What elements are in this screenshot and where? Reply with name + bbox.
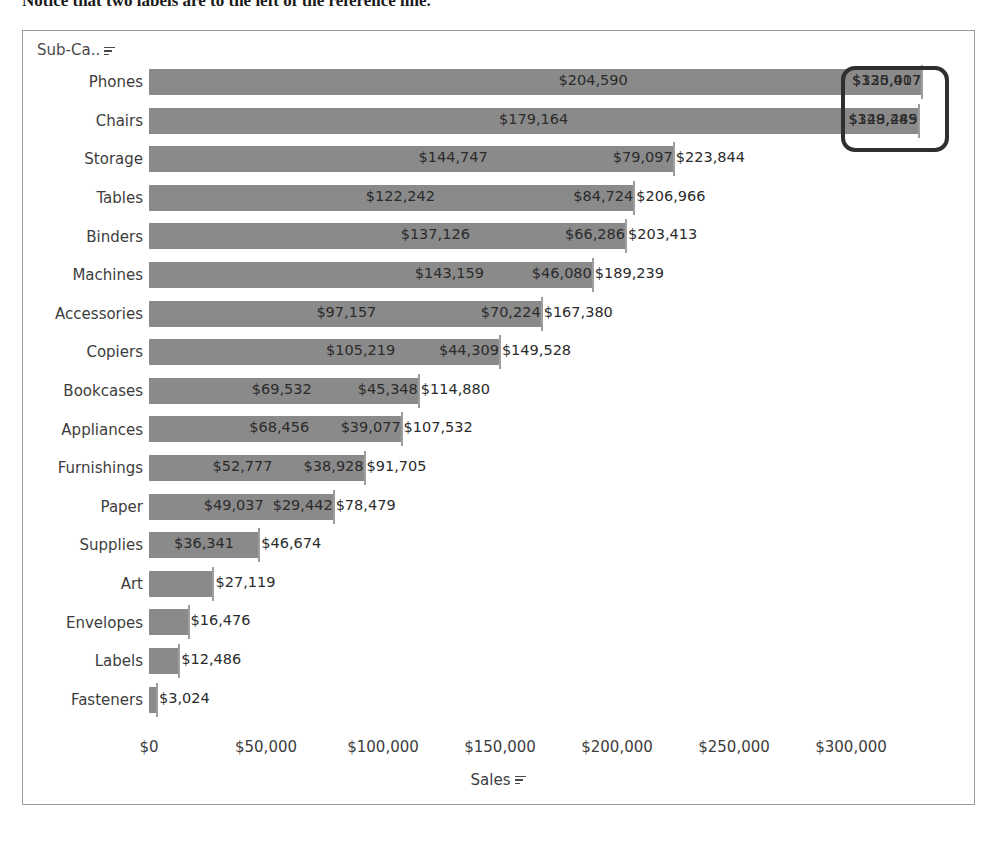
bar-row[interactable]: Copiers$105,219$44,309$149,528: [23, 333, 974, 372]
bar-segment-label: $70,224: [481, 304, 541, 320]
bar-segment-label: $52,777: [213, 458, 273, 474]
bar-row[interactable]: Binders$137,126$66,286$203,413: [23, 217, 974, 256]
bar-row[interactable]: Storage$144,747$79,097$223,844: [23, 140, 974, 179]
bar-total-label: $16,476: [188, 612, 251, 628]
row-label-supplies: Supplies: [23, 536, 143, 554]
bar-row[interactable]: Appliances$68,456$39,077$107,532: [23, 410, 974, 449]
bar-segment-label: $66,286: [565, 226, 625, 242]
bar-track: $105,219$44,309$149,528: [149, 333, 974, 372]
bar-segment-label: $137,126: [401, 226, 470, 242]
row-label-storage: Storage: [23, 150, 143, 168]
bar-total-label: $167,380: [541, 304, 613, 320]
bar-total-label: $223,844: [673, 149, 745, 165]
bar[interactable]: [149, 223, 625, 249]
bar[interactable]: [149, 648, 178, 674]
bar-total-label: $46,674: [258, 535, 321, 551]
sort-descending-icon[interactable]: [104, 47, 115, 56]
bar-row[interactable]: Supplies$36,341$46,674: [23, 526, 974, 565]
row-label-labels: Labels: [23, 652, 143, 670]
bar-row[interactable]: Chairs$179,164$149,285$328,449: [23, 102, 974, 141]
bar-segment-label: $179,164: [499, 111, 568, 127]
bar-segment-label: $79,097: [613, 149, 673, 165]
row-label-paper: Paper: [23, 498, 143, 516]
bar[interactable]: [149, 687, 156, 713]
bar-row[interactable]: Furnishings$52,777$38,928$91,705: [23, 449, 974, 488]
x-axis-tick-label: $0: [139, 738, 158, 756]
x-axis-title[interactable]: Sales: [23, 770, 974, 789]
bar-track: $16,476: [149, 603, 974, 642]
bar-row[interactable]: Bookcases$69,532$45,348$114,880: [23, 372, 974, 411]
row-label-copiers: Copiers: [23, 343, 143, 361]
bar-total-label: $328,449: [845, 111, 917, 127]
x-axis: $0$50,000$100,000$150,000$200,000$250,00…: [149, 738, 974, 758]
bar-row[interactable]: Tables$122,242$84,724$206,966: [23, 179, 974, 218]
bar-segment-label: $97,157: [316, 304, 376, 320]
bar-row[interactable]: Fasteners$3,024: [23, 681, 974, 720]
row-label-appliances: Appliances: [23, 421, 143, 439]
bar-segment-label: $84,724: [573, 188, 633, 204]
bar-row[interactable]: Machines$143,159$46,080$189,239: [23, 256, 974, 295]
sort-descending-icon[interactable]: [515, 776, 526, 785]
x-axis-tick-label: $200,000: [581, 738, 653, 756]
bar[interactable]: [149, 609, 188, 635]
bar-track: $143,159$46,080$189,239: [149, 256, 974, 295]
bar-track: $36,341$46,674: [149, 526, 974, 565]
bar-track: $12,486: [149, 642, 974, 681]
bar-row[interactable]: Art$27,119: [23, 565, 974, 604]
bar-total-label: $189,239: [592, 265, 664, 281]
bar-segment-label: $68,456: [249, 419, 309, 435]
bar-track: $179,164$149,285$328,449: [149, 102, 974, 141]
row-label-envelopes: Envelopes: [23, 614, 143, 632]
row-label-furnishings: Furnishings: [23, 459, 143, 477]
bar-segment-label: $69,532: [252, 381, 312, 397]
bar[interactable]: [149, 571, 212, 597]
row-label-fasteners: Fasteners: [23, 691, 143, 709]
bar-end-reference-tick: [918, 104, 920, 138]
bar[interactable]: [149, 69, 921, 95]
bar-track: $122,242$84,724$206,966: [149, 179, 974, 218]
bar-row[interactable]: Envelopes$16,476: [23, 603, 974, 642]
bar-segment-label: $36,341: [174, 535, 234, 551]
bar-segment-label: $39,077: [341, 419, 401, 435]
row-label-machines: Machines: [23, 266, 143, 284]
bar-track: $97,157$70,224$167,380: [149, 295, 974, 334]
bar-total-label: $206,966: [633, 188, 705, 204]
bar-row[interactable]: Accessories$97,157$70,224$167,380: [23, 295, 974, 334]
bar-segment-label: $44,309: [439, 342, 499, 358]
figure-caption: Notice that two labels are to the left o…: [22, 0, 822, 9]
bar-row[interactable]: Phones$204,590$125,417$330,007: [23, 63, 974, 102]
x-axis-tick-label: $100,000: [347, 738, 419, 756]
bar-track: $52,777$38,928$91,705: [149, 449, 974, 488]
bar-track: $3,024: [149, 681, 974, 720]
row-label-binders: Binders: [23, 228, 143, 246]
bar-segment-label: $29,442: [273, 497, 333, 513]
bar-total-label: $330,007: [849, 72, 921, 88]
bar[interactable]: [149, 262, 592, 288]
bar-segment-label: $38,928: [304, 458, 364, 474]
bar-end-reference-tick: [921, 65, 923, 99]
bar-total-label: $203,413: [625, 226, 697, 242]
bar-segment-label: $204,590: [559, 72, 628, 88]
bar-row[interactable]: Paper$49,037$29,442$78,479: [23, 488, 974, 527]
bar-track: $27,119: [149, 565, 974, 604]
row-label-accessories: Accessories: [23, 305, 143, 323]
bar-segment-label: $46,080: [532, 265, 592, 281]
row-label-art: Art: [23, 575, 143, 593]
bar-total-label: $3,024: [156, 690, 210, 706]
bar-total-label: $12,486: [178, 651, 241, 667]
bar-track: $69,532$45,348$114,880: [149, 372, 974, 411]
bar[interactable]: [149, 146, 673, 172]
bar-track: $137,126$66,286$203,413: [149, 217, 974, 256]
bar-segment-label: $45,348: [358, 381, 418, 397]
bar-track: $204,590$125,417$330,007: [149, 63, 974, 102]
row-label-phones: Phones: [23, 73, 143, 91]
bar-total-label: $149,528: [499, 342, 571, 358]
bar-track: $49,037$29,442$78,479: [149, 488, 974, 527]
bar-row[interactable]: Labels$12,486: [23, 642, 974, 681]
bar-total-label: $91,705: [364, 458, 427, 474]
row-field-header[interactable]: Sub-Ca..: [37, 41, 115, 59]
bar-rows: Phones$204,590$125,417$330,007Chairs$179…: [23, 63, 974, 719]
bar-segment-label: $105,219: [326, 342, 395, 358]
x-axis-tick-label: $300,000: [815, 738, 887, 756]
row-label-tables: Tables: [23, 189, 143, 207]
